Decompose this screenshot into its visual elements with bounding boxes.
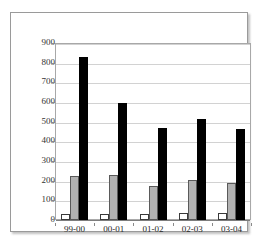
x-axis-tick-label: 03-04 bbox=[212, 223, 251, 239]
bar-group bbox=[173, 43, 212, 220]
y-axis: 9008007006005004003002001000 bbox=[11, 43, 55, 220]
bar-group bbox=[94, 43, 133, 220]
y-axis-tick-label: 600 bbox=[25, 97, 55, 106]
bar-series-3-99-00 bbox=[79, 57, 88, 220]
bar-series-1-00-01 bbox=[100, 214, 109, 220]
x-axis-tick-mark bbox=[55, 223, 56, 226]
bar-series-3-02-03 bbox=[197, 119, 206, 220]
x-axis-tick-label: 02-03 bbox=[173, 223, 212, 239]
bar-groups bbox=[55, 43, 251, 220]
bar-series-1-01-02 bbox=[140, 214, 149, 220]
bar-series-2-01-02 bbox=[149, 186, 158, 220]
bar-series-2-02-03 bbox=[188, 180, 197, 220]
bar-series-3-03-04 bbox=[236, 129, 245, 220]
x-axis-tick-mark bbox=[173, 223, 174, 226]
x-axis-tick-label: 01-02 bbox=[133, 223, 172, 239]
y-axis-tick-label: 900 bbox=[25, 38, 55, 47]
bar-group bbox=[212, 43, 251, 220]
x-axis-tick-mark bbox=[251, 223, 252, 226]
y-axis-tick-label: 500 bbox=[25, 117, 55, 126]
gridline bbox=[56, 220, 250, 221]
y-axis-tick-label: 0 bbox=[25, 215, 55, 224]
y-axis-tick-label: 300 bbox=[25, 156, 55, 165]
bar-series-2-03-04 bbox=[227, 183, 236, 220]
x-axis-tick-mark bbox=[133, 223, 134, 226]
bar-series-3-01-02 bbox=[158, 128, 167, 220]
chart-frame: 9008007006005004003002001000 99-0000-010… bbox=[10, 12, 248, 232]
y-axis-tick-label: 800 bbox=[25, 58, 55, 67]
bar-series-1-03-04 bbox=[218, 213, 227, 220]
y-axis-tick-label: 400 bbox=[25, 136, 55, 145]
x-axis-labels: 99-0000-0101-0202-0303-04 bbox=[55, 223, 251, 239]
bar-series-3-00-01 bbox=[118, 103, 127, 220]
y-axis-tick-label: 200 bbox=[25, 176, 55, 185]
bar-series-2-00-01 bbox=[109, 175, 118, 220]
bar-series-1-99-00 bbox=[61, 214, 70, 220]
x-axis-tick-mark bbox=[212, 223, 213, 226]
x-axis-tick-mark bbox=[94, 223, 95, 226]
bar-series-2-99-00 bbox=[70, 176, 79, 220]
x-axis-tick-label: 00-01 bbox=[94, 223, 133, 239]
y-axis-tick-label: 700 bbox=[25, 77, 55, 86]
x-axis-tick-label: 99-00 bbox=[55, 223, 94, 239]
bar-group bbox=[133, 43, 172, 220]
y-axis-tick-label: 100 bbox=[25, 195, 55, 204]
bar-group bbox=[55, 43, 94, 220]
bar-series-1-02-03 bbox=[179, 213, 188, 220]
